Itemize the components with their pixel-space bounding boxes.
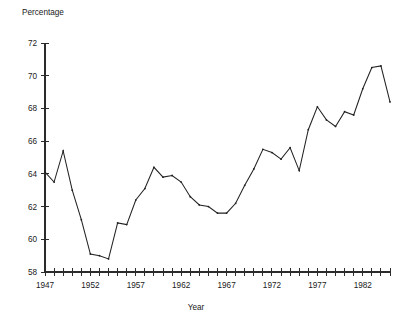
data-point — [108, 258, 110, 260]
line-chart: Percentage Year 5860626466687072 1947195… — [0, 0, 408, 324]
data-point — [89, 253, 91, 255]
x-tick-label: 1947 — [36, 281, 55, 290]
y-axis-title: Percentage — [22, 8, 64, 17]
data-point — [353, 114, 355, 116]
y-tick-label: 70 — [28, 72, 38, 81]
x-tick-label: 1982 — [354, 281, 373, 290]
y-tick-label: 62 — [28, 203, 38, 212]
x-tick-label: 1957 — [127, 281, 146, 290]
data-point — [235, 202, 237, 204]
x-tick-label: 1967 — [217, 281, 236, 290]
data-point — [99, 255, 101, 257]
data-point — [71, 189, 73, 191]
y-tick-label: 68 — [28, 104, 38, 113]
data-point — [189, 196, 191, 198]
x-tick-label: 1977 — [308, 281, 327, 290]
x-tick-label: 1972 — [263, 281, 282, 290]
data-point — [335, 126, 337, 128]
data-point — [280, 158, 282, 160]
data-point — [362, 88, 364, 90]
data-point — [217, 212, 219, 214]
data-point — [253, 168, 255, 170]
x-axis-title: Year — [188, 303, 205, 312]
data-point — [80, 219, 82, 221]
x-tick-label: 1962 — [172, 281, 191, 290]
data-point — [289, 147, 291, 149]
data-point — [307, 129, 309, 131]
data-point — [226, 212, 228, 214]
data-point — [326, 119, 328, 121]
x-tick-label: 1952 — [81, 281, 100, 290]
data-point — [62, 150, 64, 152]
data-point — [135, 199, 137, 201]
y-tick-label: 72 — [28, 39, 38, 48]
y-tick-label: 60 — [28, 235, 38, 244]
data-point — [371, 67, 373, 69]
data-point — [144, 188, 146, 190]
data-point — [171, 175, 173, 177]
data-point — [298, 170, 300, 172]
data-point — [271, 152, 273, 154]
data-point — [117, 222, 119, 224]
chart-background — [0, 0, 408, 324]
data-point — [244, 184, 246, 186]
y-tick-label: 58 — [28, 268, 38, 277]
data-point — [316, 106, 318, 108]
data-point — [153, 166, 155, 168]
data-point — [44, 171, 46, 173]
y-tick-label: 66 — [28, 137, 38, 146]
data-point — [180, 181, 182, 183]
data-point — [262, 148, 264, 150]
chart-container: Percentage Year 5860626466687072 1947195… — [0, 0, 408, 324]
data-point — [126, 224, 128, 226]
data-point — [208, 206, 210, 208]
data-point — [162, 176, 164, 178]
y-tick-label: 64 — [28, 170, 38, 179]
data-point — [380, 65, 382, 67]
data-point — [389, 101, 391, 103]
data-point — [198, 204, 200, 206]
data-point — [344, 111, 346, 113]
data-point — [53, 181, 55, 183]
